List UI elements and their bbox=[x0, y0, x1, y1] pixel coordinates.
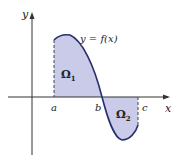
point-a-label: a bbox=[51, 102, 57, 113]
region-omega1 bbox=[54, 35, 102, 97]
x-axis-label: x bbox=[165, 102, 172, 115]
area-diagram: y x a b c y = f(x) Ω1 Ω2 bbox=[0, 0, 181, 166]
y-axis-arrow-icon bbox=[30, 12, 35, 19]
x-axis-arrow-icon bbox=[163, 95, 170, 100]
point-c-label: c bbox=[142, 102, 148, 113]
curve-label: y = f(x) bbox=[79, 33, 118, 44]
point-b-label: b bbox=[95, 102, 101, 113]
y-axis-label: y bbox=[21, 8, 29, 21]
